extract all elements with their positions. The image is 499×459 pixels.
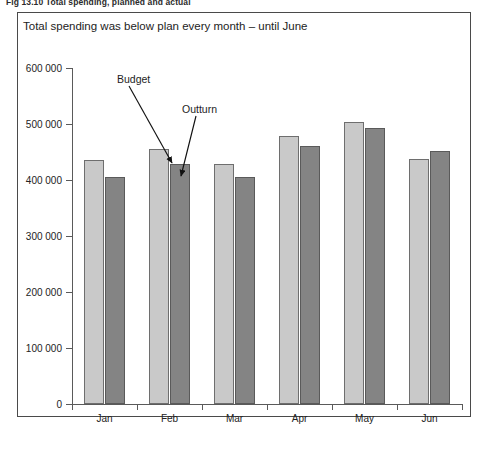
x-tick: [462, 404, 463, 410]
y-tick-label: 300 000: [26, 231, 62, 242]
y-tick-label: 100 000: [26, 343, 62, 354]
x-tick-label-apr: Apr: [292, 413, 308, 424]
chart-title: Total spending was below plan every mont…: [23, 20, 307, 32]
x-tick-label-jan: Jan: [96, 413, 112, 424]
bar-budget-apr: [279, 136, 299, 404]
x-tick: [332, 404, 333, 410]
y-tick-label: 500 000: [26, 119, 62, 130]
y-tick: [66, 236, 72, 237]
y-tick: [66, 68, 72, 69]
x-tick-label-may: May: [355, 413, 374, 424]
bar-outturn-feb: [170, 164, 190, 404]
y-axis-line: [72, 68, 73, 404]
y-tick-label: 0: [56, 399, 62, 410]
x-tick-label-jun: Jun: [421, 413, 437, 424]
y-tick: [66, 124, 72, 125]
bar-budget-mar: [214, 164, 234, 404]
y-tick-label: 400 000: [26, 175, 62, 186]
x-tick-label-mar: Mar: [226, 413, 243, 424]
bar-budget-jan: [84, 160, 104, 404]
bar-outturn-may: [365, 128, 385, 404]
bar-outturn-jan: [105, 177, 125, 404]
bar-budget-may: [344, 122, 364, 404]
y-axis-labels: 0100 000200 000300 000400 000500 000600 …: [0, 0, 62, 459]
bar-outturn-jun: [430, 151, 450, 404]
y-tick: [66, 180, 72, 181]
x-tick-label-feb: Feb: [161, 413, 178, 424]
x-tick: [397, 404, 398, 410]
x-tick: [267, 404, 268, 410]
y-tick-label: 200 000: [26, 287, 62, 298]
annotation-outturn-label: Outturn: [182, 103, 217, 115]
annotation-budget-label: Budget: [117, 73, 150, 85]
x-tick: [72, 404, 73, 410]
y-tick-label: 600 000: [26, 63, 62, 74]
bar-outturn-apr: [300, 146, 320, 404]
bar-budget-feb: [149, 149, 169, 404]
bar-budget-jun: [409, 159, 429, 404]
x-tick: [202, 404, 203, 410]
x-tick: [137, 404, 138, 410]
y-tick: [66, 348, 72, 349]
y-tick: [66, 292, 72, 293]
bar-outturn-mar: [235, 177, 255, 404]
